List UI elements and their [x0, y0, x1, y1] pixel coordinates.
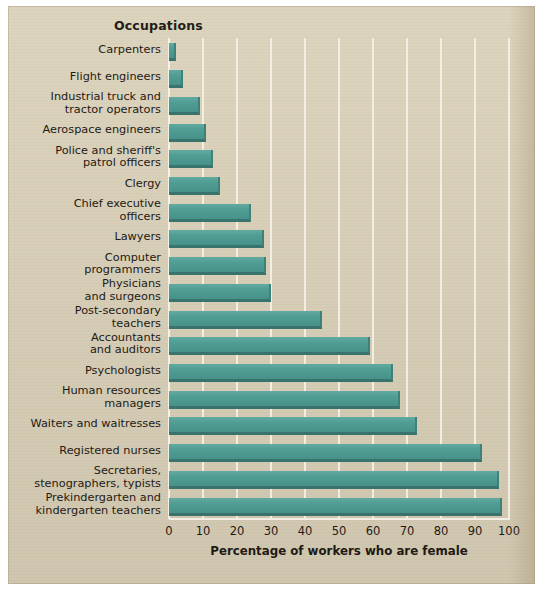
category-label: Waiters and waitresses [11, 418, 161, 431]
plot-area [169, 38, 509, 519]
bar [169, 257, 266, 275]
category-label: Chief executiveofficers [11, 198, 161, 223]
category-label: Post-secondaryteachers [11, 305, 161, 330]
category-label: Registered nurses [11, 445, 161, 458]
category-label: Aerospace engineers [11, 124, 161, 137]
category-label: Lawyers [11, 231, 161, 244]
x-tick-100: 100 [489, 524, 529, 538]
bar [169, 444, 482, 462]
category-label: Clergy [11, 178, 161, 191]
bar [169, 311, 322, 329]
category-label: Human resourcesmanagers [11, 385, 161, 410]
bar [169, 204, 251, 222]
bar [169, 471, 499, 489]
column-header: Occupations [68, 18, 203, 33]
category-label: Secretaries,stenographers, typists [11, 465, 161, 490]
category-label: Carpenters [11, 44, 161, 57]
x-axis-title: Percentage of workers who are female [169, 544, 509, 558]
bar [169, 124, 206, 142]
bar [169, 498, 502, 516]
bar [169, 43, 176, 61]
category-label: Physiciansand surgeons [11, 278, 161, 303]
category-label: Prekindergarten andkindergarten teachers [11, 492, 161, 517]
category-axis-labels: CarpentersFlight engineersIndustrial tru… [8, 38, 161, 519]
bar [169, 150, 213, 168]
bar [169, 417, 417, 435]
bar [169, 177, 220, 195]
bar [169, 97, 200, 115]
category-label: Industrial truck andtractor operators [11, 91, 161, 116]
bar [169, 230, 264, 248]
category-label: Psychologists [11, 365, 161, 378]
bar [169, 70, 183, 88]
bar [169, 284, 271, 302]
category-label: Accountantsand auditors [11, 332, 161, 357]
bar [169, 337, 370, 355]
bar [169, 364, 393, 382]
figure: Occupations CarpentersFlight engineersIn… [0, 0, 547, 599]
category-label: Flight engineers [11, 71, 161, 84]
bar [169, 391, 400, 409]
chart-panel: Occupations CarpentersFlight engineersIn… [8, 6, 535, 584]
x-axis-tick-labels: 0102030405060708090100 [169, 524, 509, 540]
category-label: Police and sheriff'spatrol officers [11, 145, 161, 170]
category-label: Computerprogrammers [11, 252, 161, 277]
gridline-100 [508, 38, 510, 519]
